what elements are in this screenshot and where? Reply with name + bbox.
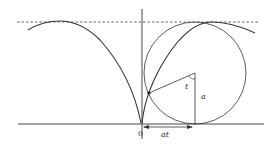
arc-length-label: at bbox=[161, 130, 170, 139]
angle-label: t bbox=[185, 82, 189, 91]
cycloid-diagram: 0 at t a bbox=[0, 0, 275, 145]
cycloid-left-arch bbox=[28, 21, 141, 123]
origin-label: 0 bbox=[138, 129, 143, 138]
arrowhead-right-icon bbox=[187, 125, 193, 129]
arrowhead-left-icon bbox=[143, 125, 149, 129]
tracing-point bbox=[147, 91, 150, 94]
angle-arc bbox=[189, 76, 195, 79]
radius-label: a bbox=[201, 92, 206, 101]
